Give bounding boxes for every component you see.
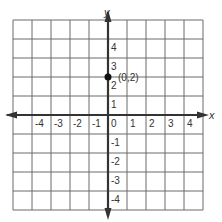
x-tick-label: 4	[187, 118, 193, 129]
y-axis-arrow-down-icon	[105, 208, 112, 220]
y-tick-label: 4	[111, 42, 117, 53]
x-tick-label: -4	[35, 118, 44, 129]
tick-labels: -4-3-2-1012344321-1-2-3-4	[35, 42, 193, 205]
axes	[5, 10, 209, 220]
x-tick-label: 2	[149, 118, 155, 129]
x-tick-label: -1	[92, 118, 101, 129]
y-tick-label: -2	[111, 156, 120, 167]
y-tick-label: -1	[111, 137, 120, 148]
x-axis-label: x	[208, 109, 215, 121]
y-tick-label: -4	[111, 194, 120, 205]
y-tick-label: 2	[111, 80, 117, 91]
y-tick-label: -3	[111, 175, 120, 186]
x-tick-label: -3	[54, 118, 63, 129]
point-label: (0,2)	[118, 72, 139, 83]
y-tick-label: 1	[111, 99, 117, 110]
coordinate-plane: -4-3-2-1012344321-1-2-3-4 (0,2) x y	[0, 0, 222, 222]
x-tick-label: 3	[168, 118, 174, 129]
x-tick-label: -2	[73, 118, 82, 129]
x-tick-label: 1	[130, 118, 136, 129]
y-tick-label: 3	[111, 61, 117, 72]
data-points: (0,2)	[105, 72, 139, 83]
x-tick-label: 0	[111, 118, 117, 129]
data-point	[105, 74, 112, 81]
x-axis-arrow-left-icon	[5, 112, 17, 119]
